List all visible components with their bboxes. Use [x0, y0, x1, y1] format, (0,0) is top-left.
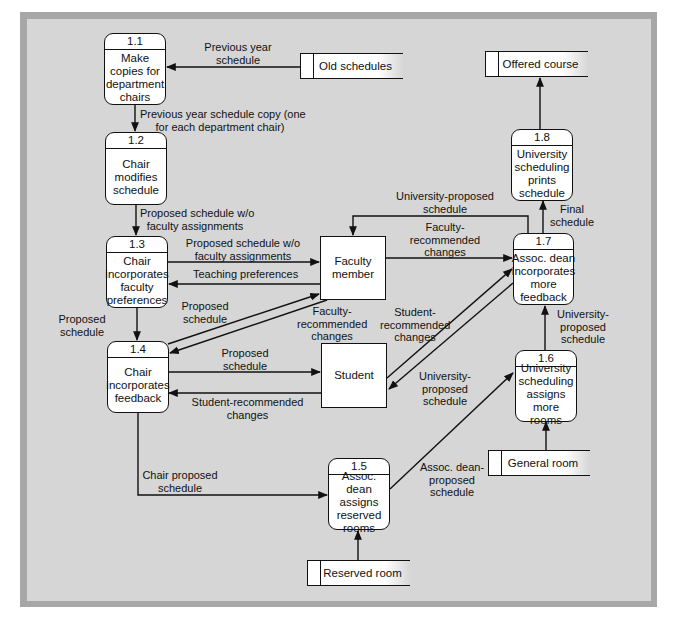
- store-old-schedules: Old schedules: [300, 53, 403, 79]
- entity-label: Faculty member: [328, 255, 378, 281]
- process-1-1: 1.1 Make copies for department chairs: [104, 33, 166, 105]
- entity-faculty-member: Faculty member: [320, 236, 386, 300]
- store-label: Old schedules: [314, 60, 403, 72]
- flow-label: Proposed schedule w/o faculty assignment…: [140, 207, 250, 232]
- flow-label: Teaching preferences: [193, 268, 297, 281]
- flow-label: Previous year schedule copy (one for eac…: [140, 108, 300, 133]
- process-id: 1.1: [105, 34, 165, 50]
- store-general-room: General room: [488, 450, 590, 476]
- process-label: Chair incorporates faculty preferences: [107, 253, 167, 308]
- store-label: Offered course: [499, 58, 588, 70]
- flow-label: Previous year schedule: [198, 41, 278, 66]
- flow-label: Student- recommended changes: [380, 306, 450, 344]
- process-label: Chair incorporates feedback: [108, 358, 168, 413]
- process-1-6: 1.6 University scheduling assigns more r…: [515, 350, 577, 422]
- process-1-2: 1.2 Chair modifies schedule: [105, 132, 167, 205]
- store-label: General room: [502, 457, 590, 469]
- flow-label: University- proposed schedule: [548, 308, 618, 346]
- process-1-4: 1.4 Chair incorporates feedback: [107, 341, 169, 413]
- flow-label: University- proposed schedule: [415, 370, 475, 408]
- process-label: Assoc. dean incorporates more feedback: [514, 250, 573, 305]
- flow-label: Proposed schedule: [57, 313, 107, 338]
- process-id: 1.4: [108, 342, 168, 358]
- process-id: 1.2: [106, 133, 166, 149]
- flow-label: Assoc. dean- proposed schedule: [418, 461, 486, 499]
- flow-label: Student-recommended changes: [190, 396, 305, 421]
- flow-label: Chair proposed schedule: [140, 469, 220, 494]
- process-1-5: 1.5 Assoc. dean assigns reserved rooms: [328, 458, 390, 530]
- store-offered-course: Offered course: [485, 51, 588, 77]
- process-label: University scheduling prints schedule: [512, 146, 572, 201]
- process-id: 1.8: [512, 130, 572, 146]
- process-id: 1.7: [514, 234, 573, 250]
- flow-label: Proposed schedule: [215, 347, 275, 372]
- process-label: Make copies for department chairs: [105, 50, 165, 105]
- process-id: 1.3: [107, 237, 167, 253]
- flow-label: Final schedule: [547, 203, 597, 228]
- flow-label: Proposed schedule w/o faculty assignment…: [183, 237, 303, 262]
- process-label: University scheduling assigns more rooms: [516, 367, 576, 422]
- flow-label: University-proposed schedule: [390, 190, 500, 215]
- entity-student: Student: [321, 343, 387, 408]
- flow-label: Faculty- recommended changes: [400, 221, 490, 259]
- process-1-3: 1.3 Chair incorporates faculty preferenc…: [106, 236, 168, 308]
- process-1-7: 1.7 Assoc. dean incorporates more feedba…: [513, 233, 574, 305]
- store-reserved-room: Reserved room: [307, 560, 410, 586]
- flow-label: Faculty- recommended changes: [297, 305, 367, 343]
- entity-label: Student: [334, 369, 374, 382]
- process-label: Assoc. dean assigns reserved rooms: [329, 475, 389, 530]
- store-label: Reserved room: [321, 567, 410, 579]
- flow-label: Proposed schedule: [175, 300, 235, 325]
- process-1-8: 1.8 University scheduling prints schedul…: [511, 129, 573, 201]
- process-label: Chair modifies schedule: [106, 149, 166, 205]
